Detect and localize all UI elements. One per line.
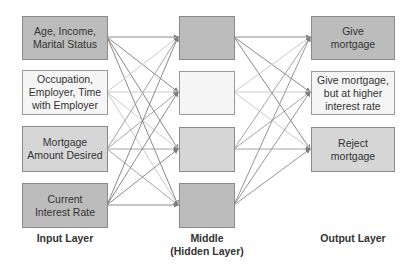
input-node-occupation: Occupation,Employer, Timewith Employer — [22, 70, 108, 115]
hidden-node-3 — [179, 127, 235, 172]
input-node-age-income: Age, Income,Marital Status — [22, 16, 108, 60]
hidden-node-4 — [179, 183, 235, 228]
input-node-interest-rate: CurrentInterest Rate — [22, 183, 108, 228]
input-node-mortgage-amount: MortgageAmount Desired — [22, 126, 108, 172]
hidden-node-1 — [179, 16, 235, 60]
input-layer-label: Input Layer — [22, 232, 108, 245]
output-node-reject-mortgage: Rejectmortgage — [311, 127, 395, 172]
hidden-node-2 — [179, 71, 235, 115]
hidden-layer-label: Middle(Hidden Layer) — [162, 232, 252, 258]
neural-network-diagram: Age, Income,Marital Status Occupation,Em… — [0, 0, 413, 266]
output-node-give-mortgage: Givemortgage — [311, 16, 395, 60]
output-layer-label: Output Layer — [311, 232, 395, 245]
output-node-higher-rate: Give mortgage,but at higherinterest rate — [311, 71, 395, 115]
